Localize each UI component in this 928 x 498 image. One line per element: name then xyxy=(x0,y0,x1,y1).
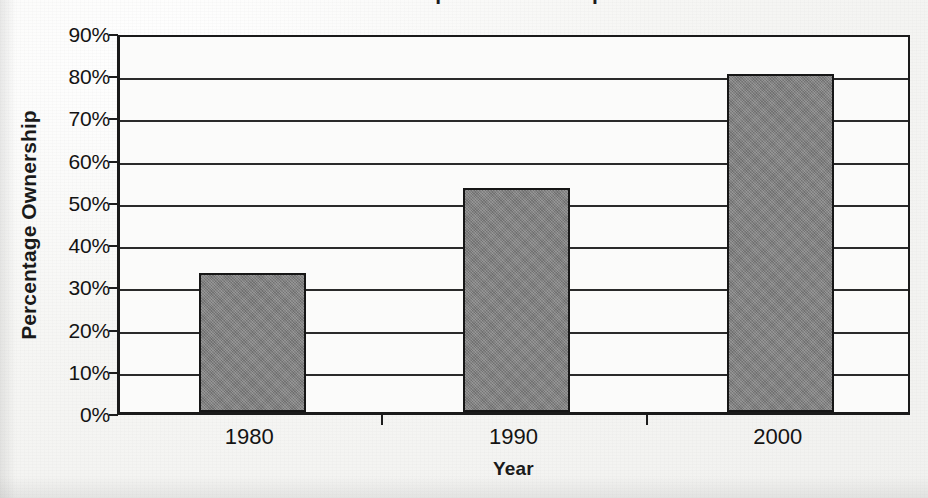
bar-1980 xyxy=(199,273,306,412)
y-axis-tick-label: 70% xyxy=(69,107,110,131)
x-axis-tick-labels: 198019902000 xyxy=(117,424,910,456)
chart-screenshot: Home Computer Ownership Percentage Owner… xyxy=(0,0,928,498)
bar-series xyxy=(120,37,908,412)
y-axis-tick-label: 10% xyxy=(69,361,110,385)
chart-title-cropped: Home Computer Ownership xyxy=(0,0,928,7)
y-axis-tick-label: 20% xyxy=(69,319,110,343)
y-axis-tick-label: 60% xyxy=(69,150,110,174)
x-axis-title: Year xyxy=(117,458,910,480)
y-axis-title-label: Percentage Ownership xyxy=(17,110,41,340)
y-axis-title: Percentage Ownership xyxy=(14,35,44,415)
plot-area xyxy=(117,35,910,415)
y-axis-tick-labels: 0%10%20%30%40%50%60%70%80%90% xyxy=(44,35,114,415)
x-axis-tick-label: 1980 xyxy=(225,424,274,450)
bar-2000 xyxy=(727,74,834,412)
y-axis-tick-label: 40% xyxy=(69,234,110,258)
y-axis-tick-label: 90% xyxy=(69,23,110,47)
y-axis-tick-label: 50% xyxy=(69,192,110,216)
x-axis-tick-label: 2000 xyxy=(753,424,802,450)
x-axis-tick-label: 1990 xyxy=(489,424,538,450)
y-axis-tick-label: 80% xyxy=(69,65,110,89)
chart-title-text: Home Computer Ownership xyxy=(0,0,928,5)
y-axis-tick-label: 30% xyxy=(69,276,110,300)
y-axis-tick-label: 0% xyxy=(80,403,110,427)
bar-1990 xyxy=(463,188,570,412)
